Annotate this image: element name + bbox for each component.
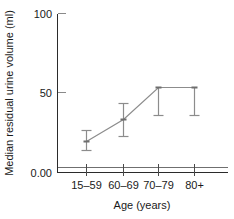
x-tick-label-60-69: 60–69	[108, 179, 139, 191]
x-tick-label-80-plus: 80+	[185, 179, 204, 191]
data-marker-80-plus	[192, 87, 198, 89]
y-tick-label-50: 50	[40, 87, 52, 99]
x-tick-label-15-59: 15–59	[71, 179, 102, 191]
chart-figure: 100 50 0.00 15–59 60–69 70–79 80+ Age (y…	[0, 0, 234, 219]
x-tick-label-70-79: 70–79	[143, 179, 174, 191]
data-marker-70-79	[156, 87, 162, 89]
residual-urine-volume-line-chart: 100 50 0.00 15–59 60–69 70–79 80+ Age (y…	[0, 0, 234, 219]
data-marker-60-69	[121, 119, 127, 121]
x-axis-title: Age (years)	[114, 199, 171, 211]
data-marker-15-59	[84, 141, 90, 143]
y-axis-title: Median residual urine volume (ml)	[3, 10, 15, 176]
y-tick-label-100: 100	[34, 8, 52, 20]
y-tick-label-0: 0.00	[31, 167, 52, 179]
